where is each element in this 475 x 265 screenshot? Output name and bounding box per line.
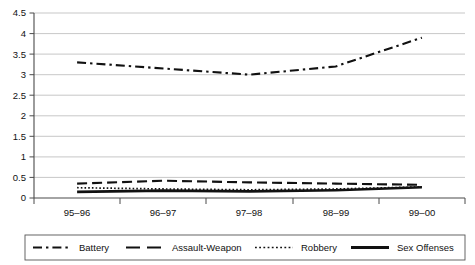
x-tick-label: 95–96 (64, 207, 90, 218)
x-tick-label: 97–98 (236, 207, 262, 218)
legend-label-sex-offenses: Sex Offenses (397, 242, 454, 253)
y-tick-label: 4.5 (13, 7, 26, 18)
chart-figure: 4.5 4 3.5 3 2.5 2 1.5 1 0.5 0 95–96 96–9… (0, 0, 475, 265)
x-tick-label: 96–97 (150, 207, 176, 218)
y-tick-label: 0.5 (13, 172, 26, 183)
legend-label-battery: Battery (79, 242, 109, 253)
x-tick-label: 99–00 (409, 207, 435, 218)
y-tick-label: 4 (21, 28, 26, 39)
legend: Battery Assault-Weapon Robbery Sex Offen… (25, 235, 465, 260)
y-tick-label: 2 (21, 110, 26, 121)
y-tick-marks (30, 13, 35, 198)
y-tick-label: 1 (21, 151, 26, 162)
y-axis-labels: 4.5 4 3.5 3 2.5 2 1.5 1 0.5 0 (13, 7, 26, 203)
y-tick-label: 2.5 (13, 90, 26, 101)
y-tick-label: 0 (21, 192, 26, 203)
legend-label-assault-weapon: Assault-Weapon (172, 242, 242, 253)
legend-label-robbery: Robbery (301, 242, 337, 253)
y-tick-label: 3.5 (13, 49, 26, 60)
plot-area-background (34, 13, 465, 198)
line-chart: 4.5 4 3.5 3 2.5 2 1.5 1 0.5 0 95–96 96–9… (0, 0, 475, 265)
x-axis-labels: 95–96 96–97 97–98 98–99 99–00 (64, 207, 435, 218)
y-tick-label: 1.5 (13, 131, 26, 142)
x-tick-marks (34, 198, 465, 204)
x-tick-label: 98–99 (323, 207, 349, 218)
y-tick-label: 3 (21, 69, 26, 80)
